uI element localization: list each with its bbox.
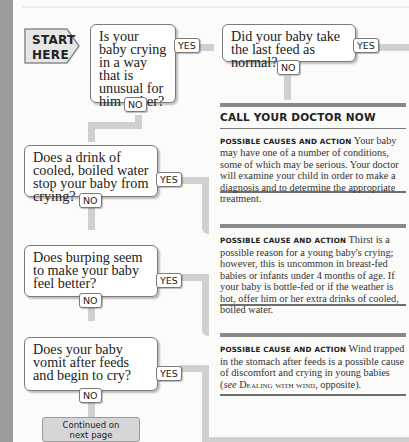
question-box-vomit: Does your baby vomit after feeds and beg… bbox=[24, 337, 158, 391]
question-box-last-feed: Did your baby take the last feed as norm… bbox=[222, 24, 356, 62]
question-text: Does your baby vomit after feeds and beg… bbox=[33, 341, 131, 383]
panel-body: Thirst is a possible reason for a young … bbox=[220, 234, 399, 315]
top-rule bbox=[22, 6, 409, 8]
dealing-with-wind-link[interactable]: Dealing with wind bbox=[239, 379, 315, 390]
page-edge-stripe bbox=[0, 0, 13, 442]
panel-thirst: Possible cause and action Thirst is a po… bbox=[220, 224, 406, 306]
no-label: NO bbox=[79, 388, 102, 403]
no-label: NO bbox=[124, 97, 147, 112]
question-box-burping: Does burping seem to make your baby feel… bbox=[24, 245, 158, 297]
panel-call-doctor: CALL YOUR DOCTOR NOW Possible causes and… bbox=[220, 103, 406, 193]
panel-label: Possible cause and action bbox=[220, 345, 346, 354]
start-label-line2: HERE bbox=[32, 48, 76, 63]
start-here-marker: START HERE bbox=[23, 27, 81, 65]
yes-label: YES bbox=[174, 38, 200, 53]
question-box-unusual-crying: Is your baby crying in a way that is unu… bbox=[90, 24, 176, 103]
panel-wind: Possible cause and action Wind trapped i… bbox=[220, 333, 406, 396]
continued-next-page-button[interactable]: Continued on next page bbox=[42, 417, 140, 442]
no-label: NO bbox=[79, 193, 102, 208]
yes-label: YES bbox=[156, 273, 182, 288]
no-label: NO bbox=[277, 60, 300, 75]
yes-label: YES bbox=[156, 366, 182, 381]
panel-body-post: , opposite). bbox=[315, 379, 361, 390]
see-reference: see bbox=[223, 379, 236, 390]
no-label: NO bbox=[79, 293, 102, 308]
continued-line1: Continued on bbox=[43, 420, 139, 430]
yes-label: YES bbox=[156, 172, 182, 187]
continued-line2: next page bbox=[43, 430, 139, 440]
question-box-cooled-water: Does a drink of cooled, boiled water sto… bbox=[24, 145, 158, 197]
question-text: Does burping seem to make your baby feel… bbox=[33, 249, 143, 291]
panel-label: Possible causes and action bbox=[220, 137, 352, 146]
panel-label: Possible cause and action bbox=[220, 236, 346, 245]
start-label-line1: START bbox=[32, 33, 76, 48]
panel-heading: CALL YOUR DOCTOR NOW bbox=[220, 107, 406, 129]
yes-label: YES bbox=[353, 38, 379, 53]
